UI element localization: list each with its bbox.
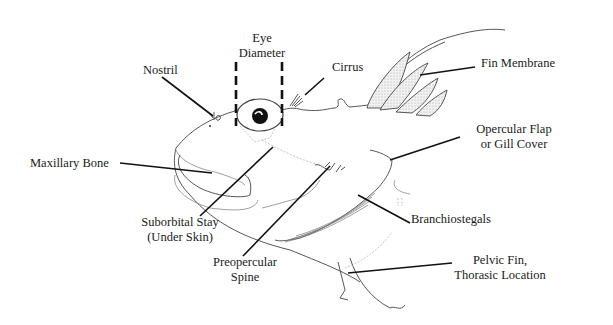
label-preopercular-line2: Spine [200, 270, 290, 285]
dorsal-fin [367, 52, 447, 116]
label-suborbital-stay: Suborbital Stay (Under Skin) [130, 215, 230, 245]
eye [237, 99, 283, 131]
label-eye-line2: Diameter [238, 46, 286, 61]
label-branchiostegals: Branchiostegals [411, 212, 491, 227]
label-eye-diameter: Eye Diameter [238, 31, 286, 61]
cirrus-mark [290, 94, 303, 107]
fish-anatomy-diagram: Eye Diameter Nostril Cirrus Fin Membrane… [0, 0, 613, 325]
label-opercular-line1: Opercular Flap [459, 122, 569, 137]
label-suborbital-line1: Suborbital Stay [130, 215, 230, 230]
label-opercular-flap: Opercular Flap or Gill Cover [459, 122, 569, 152]
label-pelvic-fin: Pelvic Fin, Thorasic Location [444, 253, 556, 283]
label-preopercular-spine: Preopercular Spine [200, 255, 290, 285]
label-pelvic-line2: Thorasic Location [444, 268, 556, 283]
label-suborbital-line2: (Under Skin) [130, 230, 230, 245]
label-nostril: Nostril [143, 63, 178, 78]
label-cirrus: Cirrus [332, 60, 363, 75]
label-preopercular-line1: Preopercular [200, 255, 290, 270]
label-maxillary-bone: Maxillary Bone [30, 156, 109, 171]
label-opercular-line2: or Gill Cover [459, 137, 569, 152]
label-eye-line1: Eye [238, 31, 286, 46]
label-fin-membrane: Fin Membrane [481, 56, 555, 71]
label-pelvic-line1: Pelvic Fin, [444, 253, 556, 268]
